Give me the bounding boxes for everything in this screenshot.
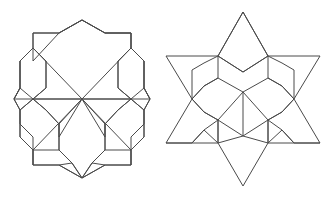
geometric-figures-canvas xyxy=(0,0,326,197)
